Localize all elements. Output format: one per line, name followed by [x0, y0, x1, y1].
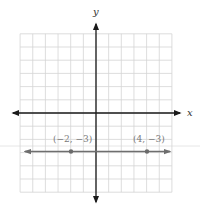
x-axis-label: x	[187, 107, 193, 118]
point-label-4-neg3: (4, −3)	[133, 134, 165, 144]
y-axis-label: y	[92, 6, 99, 17]
coordinate-plane: x y (−2, −3) (4, −3)	[0, 0, 200, 211]
point-label-neg2-neg3: (−2, −3)	[53, 134, 92, 144]
point-4-neg3	[145, 149, 149, 153]
point-neg2-neg3	[69, 149, 73, 153]
